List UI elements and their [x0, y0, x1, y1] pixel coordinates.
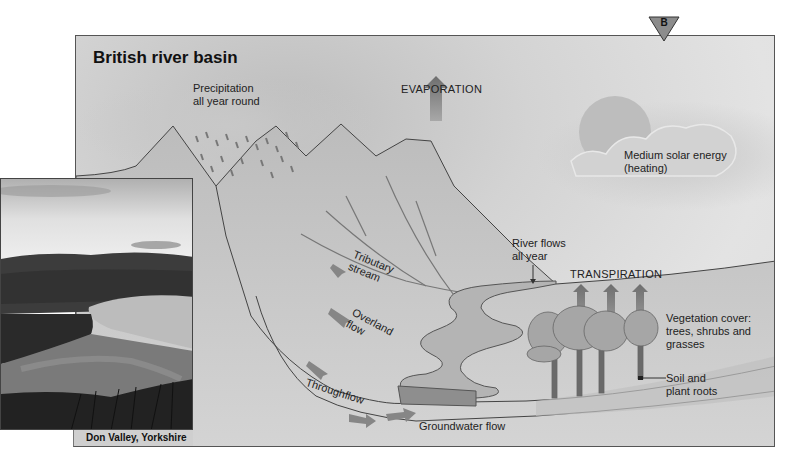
river-flows-label: River flows all year	[512, 237, 566, 263]
solar-energy-label: Medium solar energy (heating)	[624, 149, 727, 175]
solar-line-1: Medium solar energy	[624, 149, 727, 162]
precipitation-label: Precipitation all year round	[193, 82, 260, 108]
landscape-photo	[0, 178, 193, 430]
vegetation-line-1: Vegetation cover:	[666, 312, 751, 325]
evaporation-label: EVAPORATION	[401, 83, 482, 96]
solar-line-2: (heating)	[624, 162, 727, 175]
transpiration-label: TRANSPIRATION	[570, 268, 662, 281]
vegetation-cover-label: Vegetation cover: trees, shrubs and gras…	[666, 312, 751, 351]
groundwater-flow-label: Groundwater flow	[419, 420, 505, 433]
vegetation-line-2: trees, shrubs and	[666, 325, 751, 338]
precipitation-line-2: all year round	[193, 95, 260, 108]
river-flows-line-1: River flows	[512, 237, 566, 250]
section-badge: B	[648, 16, 680, 42]
soil-line-1: Soil and	[666, 372, 717, 385]
soil-roots-label: Soil and plant roots	[666, 372, 717, 398]
vegetation-line-3: grasses	[666, 338, 751, 351]
photo-caption: Don Valley, Yorkshire	[73, 430, 193, 447]
precipitation-line-1: Precipitation	[193, 82, 260, 95]
photo-image	[1, 179, 193, 430]
river-flows-line-2: all year	[512, 250, 566, 263]
diagram-title: British river basin	[93, 48, 238, 68]
soil-line-2: plant roots	[666, 385, 717, 398]
badge-letter: B	[648, 17, 680, 28]
